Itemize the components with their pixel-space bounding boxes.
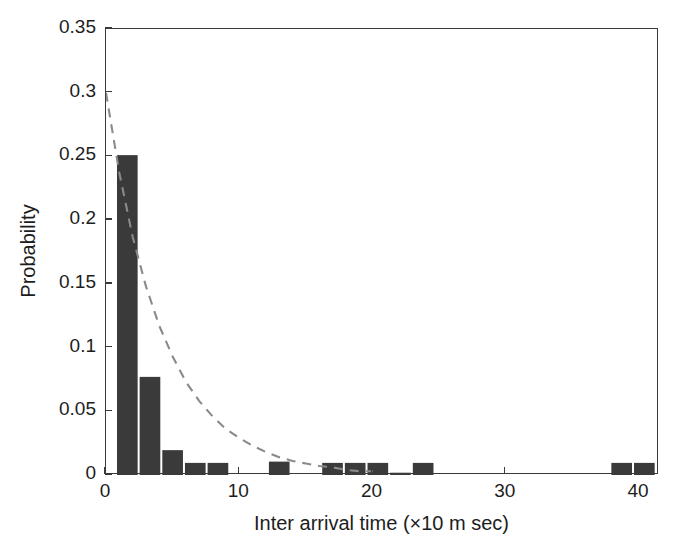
x-tick-mark — [637, 467, 638, 474]
x-tick-label: 0 — [100, 480, 111, 502]
histogram-bar — [413, 463, 434, 475]
y-tick-mark — [105, 27, 112, 28]
histogram-bar — [140, 377, 161, 475]
histogram-bar — [208, 463, 229, 475]
y-tick-mark — [105, 473, 112, 474]
y-tick-mark — [105, 91, 112, 92]
y-tick-label: 0 — [85, 462, 96, 484]
histogram-bar — [345, 463, 366, 475]
y-tick-label: 0.15 — [59, 271, 96, 293]
y-tick-label: 0.35 — [59, 16, 96, 38]
histogram-bar — [162, 450, 183, 475]
y-tick-label: 0.05 — [59, 398, 96, 420]
y-tick-mark — [105, 155, 112, 156]
x-tick-mark — [104, 467, 105, 474]
y-tick-mark — [105, 346, 112, 347]
y-tick-label: 0.1 — [70, 335, 96, 357]
x-axis-title: Inter arrival time (×10 m sec) — [105, 512, 658, 535]
x-tick-mark — [238, 467, 239, 474]
histogram-bar — [185, 463, 206, 475]
x-tick-mark — [504, 467, 505, 474]
chart-figure: Probability 00.050.10.150.20.250.30.35 0… — [0, 0, 696, 559]
x-tick-label: 30 — [494, 480, 515, 502]
y-tick-label: 0.2 — [70, 207, 96, 229]
x-tick-label: 10 — [228, 480, 249, 502]
y-tick-mark — [105, 218, 112, 219]
plot-canvas — [106, 29, 659, 475]
x-tick-mark — [371, 467, 372, 474]
x-tick-label: 20 — [361, 480, 382, 502]
histogram-bar — [269, 462, 290, 475]
bars-group — [117, 155, 655, 475]
y-axis-title: Probability — [14, 28, 42, 474]
histogram-bar — [611, 463, 632, 475]
plot-area — [105, 28, 658, 474]
histogram-bar — [390, 473, 411, 475]
histogram-bar — [117, 155, 138, 475]
y-tick-mark — [105, 282, 112, 283]
y-tick-label: 0.25 — [59, 143, 96, 165]
y-tick-mark — [105, 410, 112, 411]
x-tick-label: 40 — [627, 480, 648, 502]
y-tick-label: 0.3 — [70, 80, 96, 102]
